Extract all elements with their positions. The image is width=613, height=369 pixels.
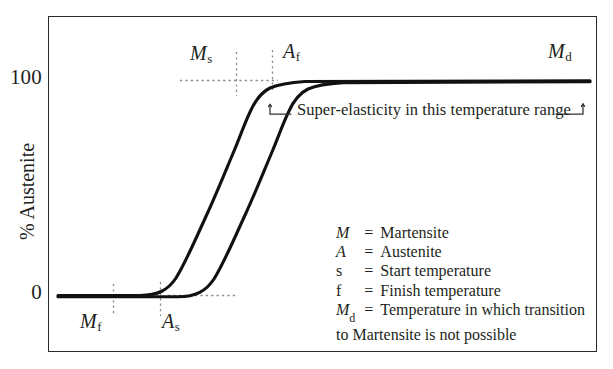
- legend-symbol: f: [336, 282, 364, 301]
- marker-md-subscript: d: [565, 49, 572, 64]
- marker-md-symbol: M: [548, 40, 565, 62]
- marker-ms-symbol: M: [190, 42, 207, 64]
- marker-label-ms: Ms: [190, 42, 212, 65]
- y-axis-tick-100: 100: [0, 65, 42, 90]
- legend-rows: M = Martensite A = Austenite s = Start t…: [336, 224, 585, 326]
- y-axis-title: % Austenite: [16, 92, 39, 292]
- legend-symbol: A: [336, 243, 364, 262]
- legend-equals: =: [364, 301, 380, 326]
- marker-mf-symbol: M: [80, 310, 97, 332]
- superelasticity-annotation: Super-elasticity in this temperature ran…: [297, 100, 571, 120]
- legend-definition: Finish temperature: [380, 282, 585, 301]
- legend-table: M = Martensite A = Austenite s = Start t…: [336, 224, 585, 326]
- chart-figure: 100 0 % Austenite: [0, 0, 613, 369]
- marker-as-subscript: s: [175, 319, 180, 334]
- legend-symbol: M: [336, 224, 364, 243]
- legend-equals: =: [364, 243, 380, 262]
- marker-as-symbol: A: [162, 310, 174, 332]
- marker-mf-subscript: f: [97, 319, 101, 334]
- marker-label-as: As: [162, 310, 179, 333]
- marker-label-md: Md: [548, 40, 571, 63]
- marker-ms-subscript: s: [207, 51, 212, 66]
- legend-continuation: to Martensite is not possible: [336, 326, 585, 344]
- legend-symbol-base: M: [336, 301, 349, 318]
- legend-symbol: Md: [336, 301, 364, 326]
- legend-equals: =: [364, 224, 380, 243]
- legend-symbol: s: [336, 262, 364, 281]
- legend-definition: Austenite: [380, 243, 585, 262]
- legend-definition: Martensite: [380, 224, 585, 243]
- marker-label-mf: Mf: [80, 310, 101, 333]
- legend-row: M = Martensite: [336, 224, 585, 243]
- legend-definition: Temperature in which transition: [380, 301, 585, 326]
- marker-af-subscript: f: [296, 49, 300, 64]
- legend-row: Md = Temperature in which transition: [336, 301, 585, 326]
- legend-equals: =: [364, 282, 380, 301]
- legend-row: s = Start temperature: [336, 262, 585, 281]
- legend-box: M = Martensite A = Austenite s = Start t…: [336, 224, 585, 344]
- legend-row: f = Finish temperature: [336, 282, 585, 301]
- legend-row: A = Austenite: [336, 243, 585, 262]
- legend-equals: =: [364, 262, 380, 281]
- legend-symbol-subscript: d: [349, 311, 355, 325]
- marker-af-symbol: A: [283, 40, 295, 62]
- legend-definition: Start temperature: [380, 262, 585, 281]
- marker-label-af: Af: [283, 40, 300, 63]
